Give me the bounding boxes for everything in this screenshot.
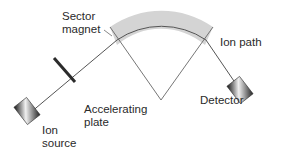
sector-edge-right xyxy=(161,27,213,100)
sector-edge-left xyxy=(110,27,161,100)
ion-source-label-line2: source xyxy=(42,137,77,150)
accelerating-plate-label-line2: plate xyxy=(84,116,147,129)
ion-path-label: Ion path xyxy=(220,36,262,49)
detector-label: Detector xyxy=(200,94,243,107)
accelerating-plate-label-line1: Accelerating xyxy=(84,103,147,116)
sector-magnet-label-line1: Sector xyxy=(62,10,100,23)
ion-source-label-line1: Ion xyxy=(42,124,77,137)
sector-magnet xyxy=(110,11,213,45)
sector-magnet-leader xyxy=(104,30,112,36)
ion-source-label: Ion source xyxy=(42,124,77,150)
sector-magnet-label-line2: magnet xyxy=(62,23,100,36)
ion-source-icon xyxy=(14,97,40,124)
accelerating-plate xyxy=(54,58,75,82)
sector-magnet-label: Sector magnet xyxy=(62,10,100,36)
accelerating-plate-label: Accelerating plate xyxy=(84,103,147,129)
